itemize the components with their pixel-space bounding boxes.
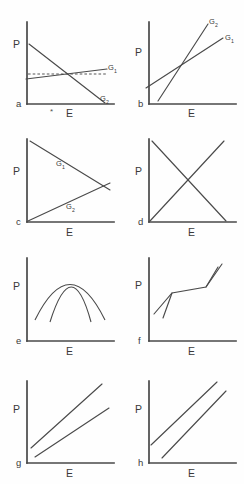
x-axis-label: E xyxy=(66,226,73,238)
series-arc-wide xyxy=(35,285,105,321)
series-sub-g1: 1 xyxy=(114,68,117,74)
y-axis-label: P xyxy=(13,38,20,50)
series-plateau-main xyxy=(154,264,222,314)
series-rising-line xyxy=(150,141,224,221)
series-g2-line xyxy=(158,24,208,101)
series-g1-line xyxy=(30,141,110,190)
panel-a: P E a * G 1 G 2 xyxy=(0,0,122,121)
y-axis-label: P xyxy=(135,165,142,177)
series-fork-upper-right xyxy=(206,267,218,287)
series-lower-line xyxy=(162,391,226,458)
series-sub-g1: 1 xyxy=(62,164,65,170)
figure-panel-grid: P E a * G 1 G 2 P E b G 1 G 2 xyxy=(0,0,244,484)
panel-g: P E g xyxy=(0,363,122,484)
panel-letter-a: a xyxy=(16,98,22,109)
y-axis-label: P xyxy=(135,279,142,291)
series-sub-g2: 2 xyxy=(215,22,218,28)
series-sub-g2: 2 xyxy=(72,207,75,213)
x-axis-tick-mark: * xyxy=(50,107,53,116)
panel-letter-b: b xyxy=(138,98,143,109)
panel-letter-d: d xyxy=(138,216,143,227)
panel-letter-e: e xyxy=(16,335,21,346)
series-upper-line xyxy=(31,384,102,448)
series-sub-g2: 2 xyxy=(106,99,109,105)
series-fork-lower-left xyxy=(163,293,172,318)
x-axis-label: E xyxy=(66,345,73,357)
series-lower-line xyxy=(35,408,109,457)
y-axis-label: P xyxy=(13,165,20,177)
series-arc-narrow xyxy=(50,287,91,322)
y-axis-label: P xyxy=(13,403,20,415)
panel-d: P E d xyxy=(122,121,244,242)
panel-b: P E b G 1 G 2 xyxy=(122,0,244,121)
series-g1-line xyxy=(146,38,223,88)
y-axis-label: P xyxy=(13,280,20,292)
series-falling-line xyxy=(152,141,226,221)
y-axis-label: P xyxy=(135,403,142,415)
panel-c: P E c G 1 G 2 xyxy=(0,121,122,242)
panel-letter-g: g xyxy=(16,457,21,468)
y-axis-label: P xyxy=(135,46,142,58)
panel-f: P E f xyxy=(122,242,244,363)
x-axis-label: E xyxy=(188,107,195,119)
x-axis-label: E xyxy=(66,107,73,119)
x-axis-label: E xyxy=(188,345,195,357)
series-sub-g1: 1 xyxy=(231,38,234,44)
panel-letter-f: f xyxy=(138,335,141,346)
x-axis-label: E xyxy=(188,226,195,238)
x-axis-label: E xyxy=(66,467,73,479)
x-axis-label: E xyxy=(188,467,195,479)
panel-letter-c: c xyxy=(16,216,21,227)
panel-h: P E h xyxy=(122,363,244,484)
panel-letter-h: h xyxy=(138,457,143,468)
series-g2-line xyxy=(29,44,105,103)
panel-e: P E e xyxy=(0,242,122,363)
